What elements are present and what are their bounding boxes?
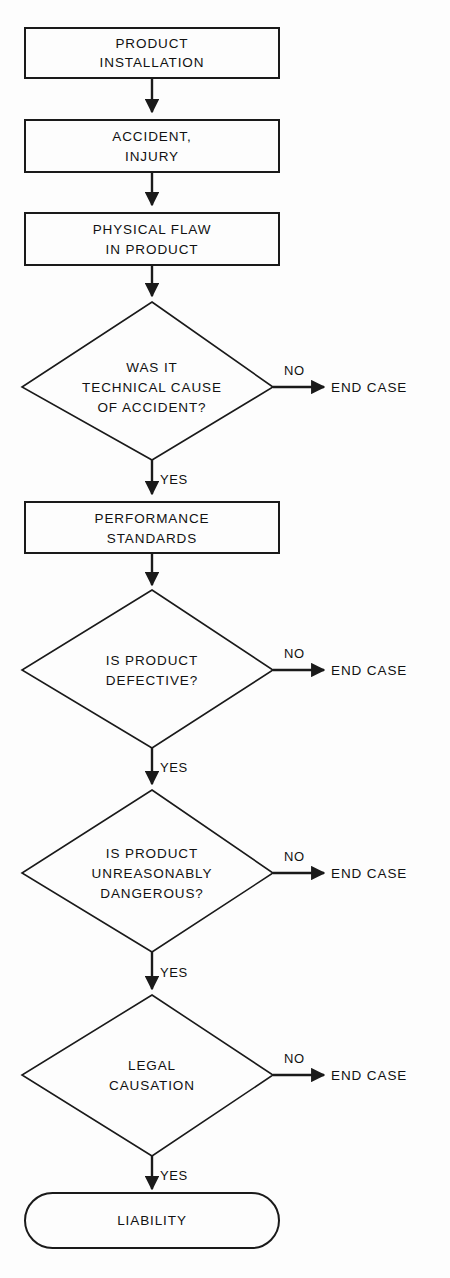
node-product-defective[interactable]: IS PRODUCT DEFECTIVE?	[22, 590, 273, 748]
flowchart-page: PRODUCT INSTALLATION ACCIDENT, INJURY PH…	[0, 0, 450, 1278]
edge-label-yes-1: YES	[160, 472, 188, 487]
end-case-1: END CASE	[331, 380, 407, 395]
node-label-line-2: INJURY	[125, 149, 179, 164]
node-label-line-1: PHYSICAL FLAW	[93, 222, 212, 237]
edge-label-yes-4: YES	[160, 1168, 188, 1183]
edge-label-no-2: NO	[284, 646, 305, 661]
node-label-line-1: IS PRODUCT	[106, 653, 198, 668]
node-label-line-1: IS PRODUCT	[106, 846, 198, 861]
edge-label-yes-3: YES	[160, 965, 188, 980]
flowchart-canvas: PRODUCT INSTALLATION ACCIDENT, INJURY PH…	[0, 0, 450, 1278]
node-physical-flaw[interactable]: PHYSICAL FLAW IN PRODUCT	[25, 213, 279, 265]
node-accident-injury[interactable]: ACCIDENT, INJURY	[25, 120, 279, 172]
node-label-line-2: CAUSATION	[109, 1078, 195, 1093]
node-product-installation[interactable]: PRODUCT INSTALLATION	[25, 28, 279, 78]
node-label-line-3: DANGEROUS?	[100, 886, 204, 901]
node-label-line-3: OF ACCIDENT?	[97, 400, 206, 415]
node-label-line-2: UNREASONABLY	[92, 866, 213, 881]
edge-label-yes-2: YES	[160, 760, 188, 775]
node-liability[interactable]: LIABILITY	[25, 1193, 279, 1248]
edge-label-no-3: NO	[284, 849, 305, 864]
node-label-line-2: IN PRODUCT	[106, 242, 199, 257]
end-case-2: END CASE	[331, 663, 407, 678]
node-label-line-1: WAS IT	[126, 360, 177, 375]
node-label-line-2: TECHNICAL CAUSE	[82, 380, 222, 395]
node-label-line-1: PERFORMANCE	[95, 511, 210, 526]
node-label-line-1: PRODUCT	[115, 36, 188, 51]
node-legal-causation[interactable]: LEGAL CAUSATION	[22, 995, 273, 1156]
node-technical-cause[interactable]: WAS IT TECHNICAL CAUSE OF ACCIDENT?	[22, 302, 273, 460]
end-case-3: END CASE	[331, 866, 407, 881]
node-label-line-2: INSTALLATION	[100, 55, 205, 70]
end-case-4: END CASE	[331, 1068, 407, 1083]
decision-diamond	[22, 995, 273, 1156]
edge-label-no-4: NO	[284, 1051, 305, 1066]
decision-diamond	[22, 590, 273, 748]
node-label-line-2: STANDARDS	[107, 531, 197, 546]
edge-label-no-1: NO	[284, 363, 305, 378]
node-label-line-1: ACCIDENT,	[112, 129, 191, 144]
node-label-line-1: LIABILITY	[117, 1213, 187, 1228]
node-label-line-1: LEGAL	[128, 1058, 176, 1073]
node-label-line-2: DEFECTIVE?	[106, 673, 198, 688]
node-unreasonably-dangerous[interactable]: IS PRODUCT UNREASONABLY DANGEROUS?	[22, 790, 273, 952]
node-performance-standards[interactable]: PERFORMANCE STANDARDS	[25, 502, 279, 553]
